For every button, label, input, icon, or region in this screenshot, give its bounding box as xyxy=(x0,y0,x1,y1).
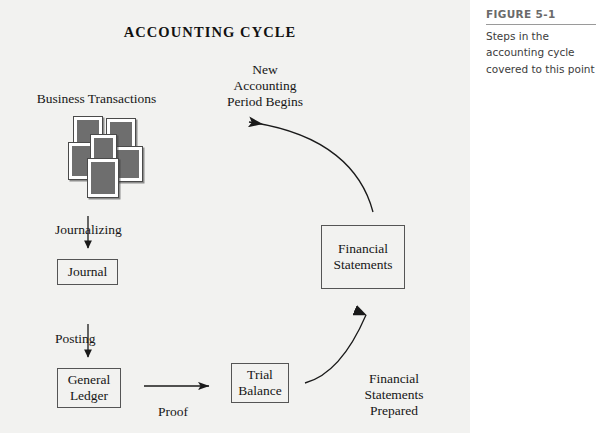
label-business-transactions: Business Transactions xyxy=(14,91,179,107)
page-title: ACCOUNTING CYCLE xyxy=(0,24,420,41)
label-proof: Proof xyxy=(128,404,218,420)
label-new-accounting-period: New Accounting Period Begins xyxy=(206,62,324,111)
node-general-ledger[interactable]: General Ledger xyxy=(57,368,121,408)
node-journal[interactable]: Journal xyxy=(57,259,118,285)
figure-panel: ACCOUNTING CYCLE Business Transactions N… xyxy=(0,0,470,433)
caption-divider xyxy=(486,24,596,25)
figure-number-label: FIGURE 5-1 xyxy=(486,8,556,20)
caption-text: Steps in the accounting cycle covered to… xyxy=(486,28,601,77)
document-card xyxy=(87,158,119,198)
edge-financial-statements-to-new-period xyxy=(249,122,373,212)
label-journalizing: Journalizing xyxy=(55,222,175,238)
caption-panel: FIGURE 5-1 Steps in the accounting cycle… xyxy=(470,0,603,433)
label-posting: Posting xyxy=(55,331,155,347)
business-transactions-documents-icon xyxy=(68,116,152,198)
node-financial-statements[interactable]: Financial Statements xyxy=(321,225,405,289)
node-trial-balance[interactable]: Trial Balance xyxy=(231,363,289,403)
label-financial-statements-prepared: Financial Statements Prepared xyxy=(338,371,450,420)
